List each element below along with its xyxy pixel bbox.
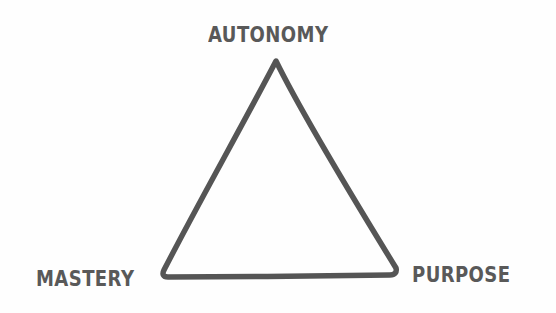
triangle-outline [163, 61, 396, 277]
vertex-label-purpose: PURPOSE [412, 264, 511, 286]
diagram-canvas: AUTONOMY MASTERY PURPOSE [0, 0, 556, 313]
vertex-label-autonomy: AUTONOMY [208, 24, 328, 46]
vertex-label-mastery: MASTERY [36, 268, 134, 290]
